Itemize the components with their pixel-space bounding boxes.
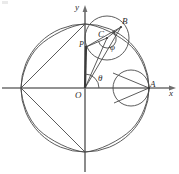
radius-vector-O-P [85, 46, 86, 88]
point-dot-B [120, 26, 122, 28]
figure-canvas: y x O A B C P θ φ [0, 0, 179, 174]
y-axis-arrow [83, 5, 88, 12]
point-label-P: P [79, 41, 84, 49]
origin-label: O [75, 91, 82, 100]
angle-label-theta: θ [98, 74, 102, 83]
point-label-B: B [122, 17, 128, 26]
point-label-A: A [150, 80, 156, 89]
point-label-C: C [98, 30, 104, 39]
point-dot-C [106, 37, 108, 39]
angle-label-phi: φ [110, 43, 115, 52]
y-axis-label: y [75, 3, 79, 12]
x-axis-label: x [169, 89, 173, 98]
point-dot-P [85, 46, 87, 48]
theta-angle-arc [85, 74, 99, 88]
